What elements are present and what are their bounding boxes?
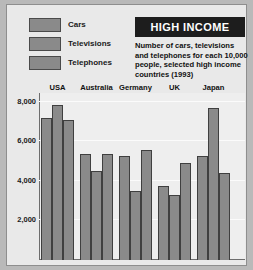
bar-group-uk: UK [158,93,191,260]
bar-australia-televisions [91,171,102,260]
country-label-australia: Australia [80,83,113,92]
bar-australia-telephones [102,154,113,260]
chart-title: HIGH INCOME [151,21,230,33]
bar-germany-televisions [130,191,141,260]
country-label-germany: Germany [119,83,152,92]
legend-swatch-telephones [29,56,61,70]
legend-label-telephones: Telephones [68,58,112,67]
bar-australia-cars [80,154,91,260]
bar-group-usa: USA [41,93,74,260]
legend-label-cars: Cars [68,20,86,29]
bar-japan-televisions [208,108,219,260]
country-label-usa: USA [49,83,65,92]
bar-usa-telephones [63,120,74,260]
bar-germany-telephones [141,150,152,260]
bar-uk-televisions [169,195,180,260]
legend-label-televisions: Televisions [68,39,111,48]
legend-swatch-televisions [29,37,61,51]
chart-title-banner: HIGH INCOME [135,17,245,37]
ytick-label-4000: 4,000 [17,175,36,184]
chart-caption: Number of cars, televisions and telephon… [135,41,249,79]
country-label-japan: Japan [203,83,225,92]
bar-japan-telephones [219,173,230,260]
bar-group-japan: Japan [197,93,230,260]
bar-group-australia: Australia [80,93,113,260]
ytick-label-8000: 8,000 [17,96,36,105]
bar-usa-cars [41,118,52,260]
chart-frame: Cars Televisions Telephones HIGH INCOME … [6,4,247,266]
bar-groups: USA Australia Germany UK [39,93,245,260]
ytick-label-2000: 2,000 [17,215,36,224]
legend-item-cars: Cars [29,17,112,32]
plot-area: 8,000 6,000 4,000 2,000 USA Australia Ge… [39,93,245,260]
legend-item-telephones: Telephones [29,55,112,70]
bar-japan-cars [197,156,208,260]
legend-item-televisions: Televisions [29,36,112,51]
bar-uk-telephones [180,163,191,260]
chart-legend: Cars Televisions Telephones [29,17,112,70]
country-label-uk: UK [169,83,180,92]
bar-uk-cars [158,186,169,260]
bar-germany-cars [119,156,130,260]
bar-group-germany: Germany [119,93,152,260]
ytick-label-6000: 6,000 [17,136,36,145]
legend-swatch-cars [29,18,61,32]
bar-usa-televisions [52,105,63,260]
